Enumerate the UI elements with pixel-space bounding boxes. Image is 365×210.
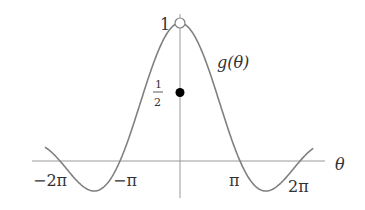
- tick-label-neg-pi: −π: [113, 171, 137, 190]
- theta-axis-label: θ: [335, 155, 345, 174]
- filled-dot-marker: [176, 88, 185, 97]
- sinc-diagram: 1 1 2 g(θ) θ −2π −π π 2π: [0, 0, 365, 210]
- tick-label-neg-2pi: −2π: [33, 171, 67, 190]
- open-circle-marker: [175, 18, 185, 28]
- y-label-half-denominator: 2: [154, 96, 161, 109]
- tick-label-pi: π: [229, 171, 240, 190]
- function-label: g(θ): [217, 53, 249, 72]
- y-label-half-numerator: 1: [155, 78, 162, 91]
- y-label-one: 1: [160, 15, 170, 34]
- tick-label-2pi: 2π: [288, 177, 309, 196]
- g-theta-curve: [45, 23, 313, 191]
